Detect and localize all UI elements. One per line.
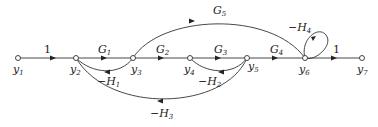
node-y3 (131, 56, 136, 61)
node-y2 (74, 56, 79, 61)
node-y1 (16, 56, 21, 61)
gain-label-g2: G2 (156, 43, 170, 57)
node-label-y7: y7 (356, 63, 368, 77)
arrow-icon (331, 56, 337, 61)
node-y6 (303, 56, 308, 61)
node-label-y1: y1 (12, 63, 24, 77)
edge-neg-h4-self-loop (304, 32, 328, 59)
gain-label-1-in: 1 (44, 43, 51, 56)
arrow-icon (272, 56, 278, 61)
node-label-y5: y5 (247, 60, 259, 74)
gain-label-g5: G5 (213, 4, 227, 18)
arrow-icon (158, 56, 164, 61)
node-label-y4: y4 (183, 63, 195, 77)
arrow-icon (189, 19, 195, 24)
gain-label-g1: G1 (98, 43, 111, 57)
node-label-y6: y6 (298, 63, 310, 77)
gain-label-g3: G3 (214, 43, 228, 57)
gain-label-neg-h4: −H4 (288, 21, 311, 35)
arrow-icon (218, 70, 224, 75)
gain-label-neg-h2: −H2 (198, 75, 222, 89)
arrow-icon (104, 70, 110, 75)
node-label-y3: y3 (130, 63, 142, 77)
gain-label-1-out: 1 (333, 43, 340, 56)
arrow-icon (215, 56, 221, 61)
gain-label-neg-h1: −H1 (97, 75, 120, 89)
gain-label-neg-h3: −H3 (150, 107, 174, 121)
node-label-y2: y2 (69, 63, 81, 77)
arrow-icon (50, 56, 56, 61)
gain-label-g4: G4 (270, 43, 283, 57)
node-y4 (188, 56, 193, 61)
edge-neg-h2 (190, 58, 247, 71)
signal-flow-graph: y1 y2 y3 y4 y5 y6 y7 1 G1 G2 G3 G4 G5 1 … (0, 0, 378, 127)
arrow-icon (311, 36, 316, 41)
node-y7 (360, 56, 365, 61)
